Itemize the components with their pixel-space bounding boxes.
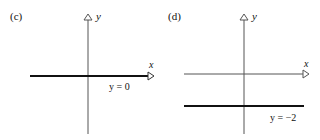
- panel-c-y-axis-label: y: [95, 10, 101, 22]
- panel-d-label: (d): [168, 10, 181, 23]
- panel-d-x-arrow-icon: [303, 70, 309, 78]
- panel-c-y-arrow-icon: [84, 14, 92, 20]
- panel-c: (c) y x y = 0: [10, 10, 154, 134]
- panel-d-x-axis-label: x: [303, 58, 309, 69]
- panel-d-y-arrow-icon: [240, 14, 248, 20]
- panel-c-x-axis-label: x: [148, 59, 154, 70]
- panel-d-y-axis-label: y: [251, 10, 257, 22]
- panel-d-line-label: y = −2: [270, 112, 296, 123]
- panel-d: (d) y x y = −2: [168, 10, 309, 134]
- panel-c-label: (c): [10, 10, 23, 23]
- panel-c-x-arrow-icon: [148, 72, 154, 80]
- graphs-figure: (c) y x y = 0 (d) y x y = −2: [0, 0, 320, 140]
- panel-c-line-label: y = 0: [109, 81, 130, 92]
